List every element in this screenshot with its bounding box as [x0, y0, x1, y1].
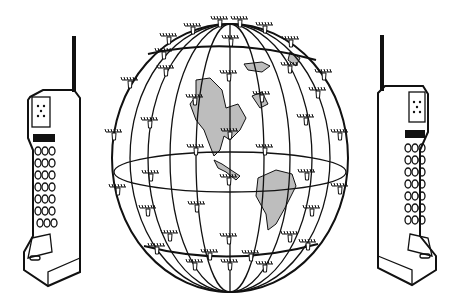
globe-icon: [112, 24, 348, 292]
right-phone-icon: [378, 35, 436, 285]
illustration-svg: [0, 0, 461, 295]
illustration: [0, 0, 461, 295]
left-phone-icon: [24, 36, 80, 286]
